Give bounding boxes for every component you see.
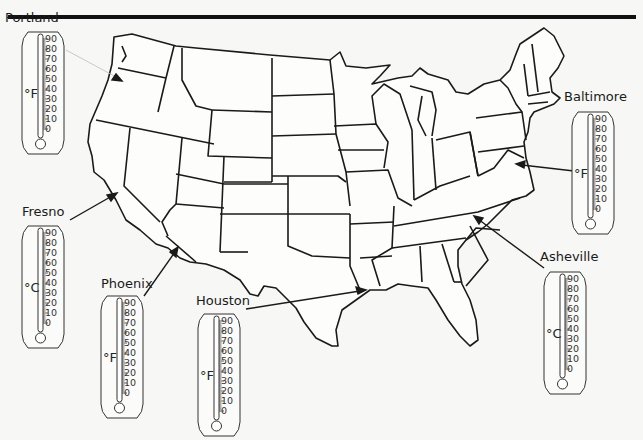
- scale-ticks: 9080706050403020100: [45, 228, 57, 328]
- city-label: Fresno: [22, 204, 65, 219]
- thermometer: °F 9080706050403020100: [20, 28, 66, 158]
- tick-label: 0: [124, 388, 136, 398]
- us-outline: [88, 28, 564, 346]
- city-label: Houston: [196, 293, 250, 308]
- thermometer: °F 9080706050403020100: [570, 108, 616, 238]
- scale-ticks: 9080706050403020100: [124, 298, 136, 398]
- unit-label: °F: [200, 368, 214, 383]
- tick-label: 0: [45, 318, 57, 328]
- city-label: Asheville: [540, 249, 598, 264]
- city-label: Phoenix: [101, 276, 153, 291]
- tick-label: 0: [595, 204, 607, 214]
- unit-label: °C: [24, 280, 40, 295]
- unit-label: °F: [103, 350, 117, 365]
- thermometer: °C 9080706050403020100: [20, 222, 66, 352]
- scale-ticks: 9080706050403020100: [45, 34, 57, 134]
- scale-ticks: 9080706050403020100: [567, 274, 579, 374]
- city-label: Portland: [5, 10, 59, 25]
- unit-label: °F: [574, 166, 588, 181]
- thermometer: °F 9080706050403020100: [99, 292, 145, 422]
- scale-ticks: 9080706050403020100: [595, 114, 607, 214]
- tick-label: 0: [45, 124, 57, 134]
- unit-label: °F: [24, 86, 38, 101]
- thermometer: °F 9080706050403020100: [196, 310, 242, 440]
- unit-label: °C: [546, 326, 562, 341]
- scale-ticks: 9080706050403020100: [221, 316, 233, 416]
- tick-label: 0: [567, 364, 579, 374]
- thermometer: °C 9080706050403020100: [542, 268, 588, 398]
- city-label: Baltimore: [564, 89, 627, 104]
- tick-label: 0: [221, 406, 233, 416]
